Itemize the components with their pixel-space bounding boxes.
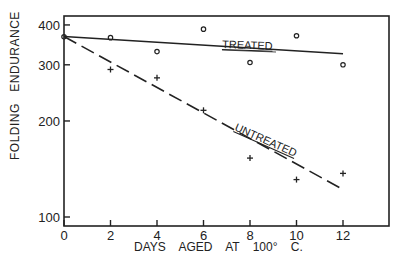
- y-axis-label: FOLDING ENDURANCE: [8, 11, 22, 160]
- treated-point: [294, 34, 298, 38]
- treated-fit-line: [64, 36, 343, 53]
- x-tick-label: 0: [60, 228, 67, 243]
- y-tick-label: 100: [38, 210, 60, 225]
- untreated-point: [340, 170, 346, 176]
- x-tick-label: 12: [336, 228, 350, 243]
- untreated-point: [294, 177, 300, 183]
- untreated-point: [247, 155, 253, 161]
- y-tick-label: 300: [38, 58, 60, 73]
- treated-point: [155, 49, 159, 53]
- treated-point: [201, 27, 205, 31]
- chart-canvas: 024681012 100200300400 TREATEDUNTREATED: [0, 0, 403, 269]
- treated-label: TREATED: [222, 38, 273, 52]
- series-labels: TREATEDUNTREATED: [222, 38, 299, 159]
- untreated-label: UNTREATED: [233, 121, 299, 159]
- untreated-point: [154, 75, 160, 81]
- x-axis-label: DAYS AGED AT 100° C.: [134, 240, 303, 254]
- data-points: [62, 27, 346, 183]
- untreated-point: [108, 66, 114, 72]
- untreated-point: [201, 107, 207, 113]
- y-tick-label: 200: [38, 114, 60, 129]
- y-axis-ticks: 100200300400: [38, 18, 70, 225]
- x-tick-label: 2: [107, 228, 114, 243]
- y-tick-label: 400: [38, 18, 60, 33]
- treated-point: [248, 60, 252, 64]
- treated-point: [341, 63, 345, 67]
